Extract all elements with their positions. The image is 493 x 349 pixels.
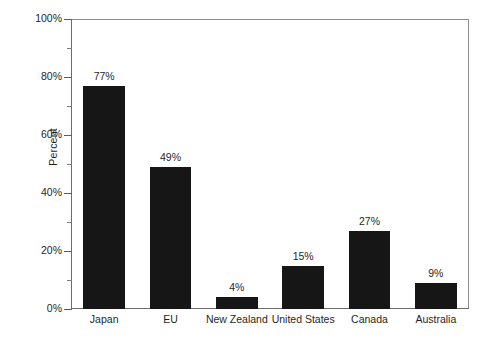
x-axis-category-label: New Zealand xyxy=(204,313,270,325)
bar-value-label: 49% xyxy=(150,151,192,163)
bar xyxy=(415,283,457,309)
bar-value-label: 77% xyxy=(83,70,125,82)
bar-series: 77%49%4%15%27%9% xyxy=(71,19,469,309)
y-axis-tick-label: 60% xyxy=(4,128,62,140)
y-axis-tick-label: 100% xyxy=(4,12,62,24)
y-axis-tick-label: 0% xyxy=(4,302,62,314)
bar xyxy=(83,86,125,309)
bar-value-label: 27% xyxy=(349,215,391,227)
bar-group: 4% xyxy=(216,19,258,309)
y-axis-major-tick xyxy=(64,309,72,310)
y-axis-tick-label: 80% xyxy=(4,70,62,82)
bar-group: 27% xyxy=(349,19,391,309)
y-axis-tick-label: 20% xyxy=(4,244,62,256)
x-axis-category-labels: JapanEUNew ZealandUnited StatesCanadaAus… xyxy=(71,313,469,331)
x-axis-category-label: Canada xyxy=(336,313,402,325)
x-axis-category-label: Australia xyxy=(403,313,469,325)
bar xyxy=(150,167,192,309)
bar-group: 49% xyxy=(150,19,192,309)
x-axis-category-label: EU xyxy=(137,313,203,325)
bar-value-label: 4% xyxy=(216,281,258,293)
bar-chart-figure: Percent 0%20%40%60%80%100% 77%49%4%15%27… xyxy=(0,0,493,349)
bar-value-label: 9% xyxy=(415,267,457,279)
bar-value-label: 15% xyxy=(282,250,324,262)
y-axis-tick-labels: 0%20%40%60%80%100% xyxy=(0,0,62,349)
bar xyxy=(282,266,324,310)
bar-group: 15% xyxy=(282,19,324,309)
y-axis-tick-label: 40% xyxy=(4,186,62,198)
bar xyxy=(216,297,258,309)
x-axis-category-label: United States xyxy=(270,313,336,325)
x-axis-category-label: Japan xyxy=(71,313,137,325)
bar-group: 9% xyxy=(415,19,457,309)
bar-group: 77% xyxy=(83,19,125,309)
bar xyxy=(349,231,391,309)
